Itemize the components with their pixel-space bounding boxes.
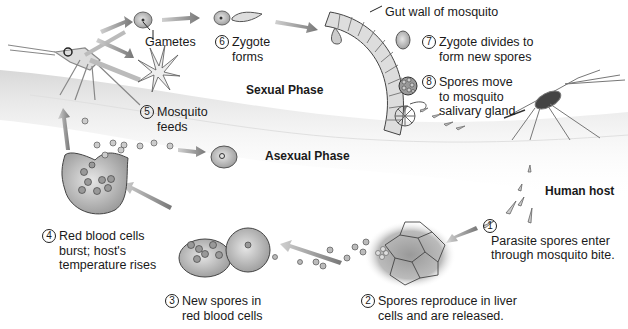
step-number: 2 bbox=[361, 294, 375, 308]
step-4-red-blood-cells-burst: 4Red blood cellsburst; host'stemperature… bbox=[42, 229, 156, 273]
step-5-mosquito-feeds: 5Mosquitofeeds bbox=[140, 105, 208, 134]
malaria-life-cycle-diagram: Gametes Gut wall of mosquito Sexual Phas… bbox=[0, 0, 628, 329]
asexual-phase-label: Asexual Phase bbox=[265, 149, 350, 163]
human-host-label: Human host bbox=[545, 184, 614, 198]
step-3-new-spores: 3New spores inred blood cells bbox=[165, 294, 263, 323]
sexual-phase-label: Sexual Phase bbox=[246, 83, 323, 97]
step-number: 6 bbox=[215, 35, 229, 49]
diagram-artwork bbox=[0, 0, 628, 329]
step-2-spores-reproduce: 2Spores reproduce in livercells and are … bbox=[361, 294, 517, 323]
gametocyte-icon bbox=[211, 146, 237, 168]
zygote-icon bbox=[214, 11, 262, 25]
step-number: 7 bbox=[422, 35, 436, 49]
step-number: 8 bbox=[422, 75, 436, 89]
male-gamete-star-icon bbox=[138, 45, 180, 92]
step-number: 3 bbox=[165, 294, 179, 308]
liver-cells-icon bbox=[364, 221, 456, 289]
gut-wall-label: Gut wall of mosquito bbox=[385, 5, 498, 19]
step-number: 5 bbox=[140, 105, 154, 119]
step-6-zygote-forms: 6Zygoteforms bbox=[215, 35, 270, 64]
step-8-spores-move: 8Spores moveto mosquitosalivary gland bbox=[422, 75, 515, 119]
step-number: 4 bbox=[42, 229, 56, 243]
step-1-parasite-spores-enter: 1Parasite spores enterthrough mosquito b… bbox=[483, 219, 628, 263]
gametes-label: Gametes bbox=[145, 35, 196, 49]
red-blood-cells-icon bbox=[179, 228, 270, 277]
step-number: 1 bbox=[483, 219, 497, 233]
step-7-zygote-divides: 7Zygote divides toform new spores bbox=[422, 35, 534, 64]
